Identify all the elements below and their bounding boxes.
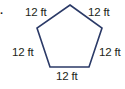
side-label-top-right: 12 ft bbox=[88, 6, 109, 18]
side-label-top-left: 12 ft bbox=[25, 6, 46, 18]
side-label-bottom: 12 ft bbox=[56, 70, 77, 82]
side-label-right: 12 ft bbox=[99, 46, 120, 58]
side-label-left: 12 ft bbox=[12, 46, 33, 58]
